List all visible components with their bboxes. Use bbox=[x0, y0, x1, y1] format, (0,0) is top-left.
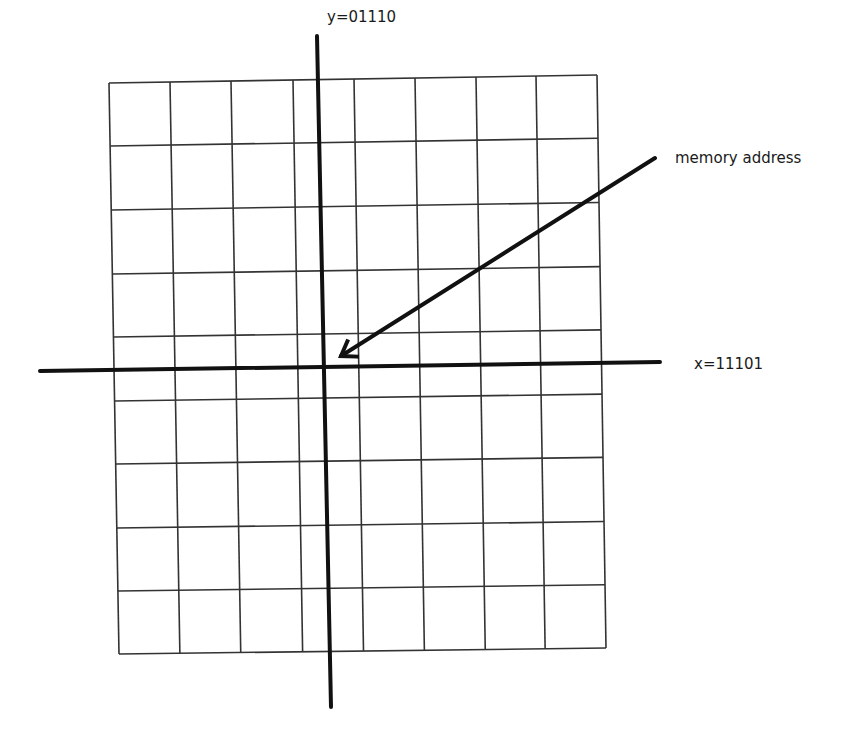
arrow-shaft bbox=[341, 158, 655, 356]
y-axis-label: y=01110 bbox=[327, 10, 396, 25]
grid-line-horizontal bbox=[109, 75, 597, 83]
grid-line-horizontal bbox=[111, 202, 599, 210]
grid-line-horizontal bbox=[119, 648, 606, 654]
grid-line-horizontal bbox=[110, 138, 598, 146]
grid-line-horizontal bbox=[113, 330, 601, 337]
grid-line-horizontal bbox=[112, 267, 600, 274]
memory-address-arrow bbox=[341, 158, 655, 357]
grid-line-horizontal bbox=[117, 522, 604, 528]
grid-line-horizontal bbox=[118, 585, 605, 591]
grid-line-horizontal bbox=[116, 457, 603, 464]
grid-line-horizontal bbox=[115, 394, 602, 401]
memory-address-label: memory address bbox=[675, 151, 801, 166]
x-axis-label: x=11101 bbox=[694, 357, 763, 372]
y-axis bbox=[317, 36, 331, 707]
x-axis bbox=[40, 362, 660, 371]
coordinate-grid-diagram bbox=[0, 0, 862, 746]
